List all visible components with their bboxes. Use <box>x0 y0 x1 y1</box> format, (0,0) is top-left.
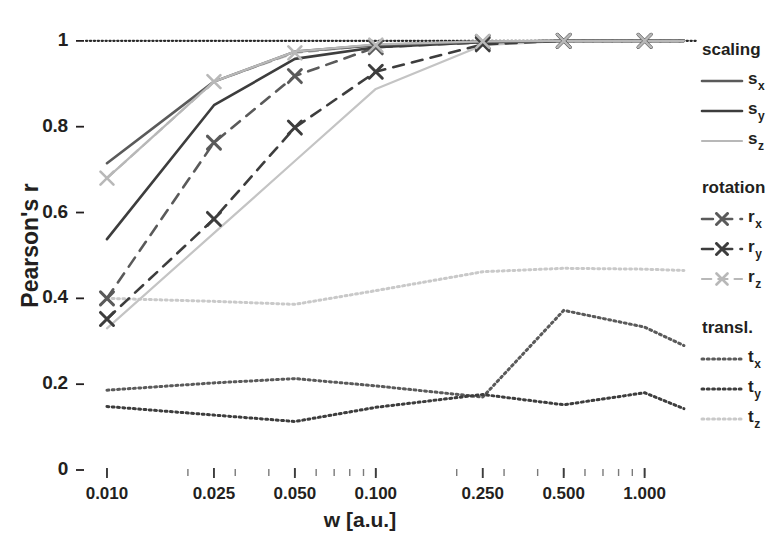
legend-entry-label: sx <box>748 70 765 91</box>
series-line-t_y <box>107 393 684 422</box>
scaling-group: scalingsxsysz <box>700 40 780 156</box>
legend-item-sz[interactable]: sz <box>700 126 780 156</box>
series-line-s_y_light <box>107 41 684 329</box>
legend-entry-label: sz <box>748 130 764 151</box>
x-tick-label: 0.500 <box>519 484 609 504</box>
rotation-group: rotationrxryrz <box>700 178 780 294</box>
series-markers-r_y <box>100 34 651 325</box>
legend-group-title: transl. <box>702 318 780 338</box>
legend-item-sx[interactable]: sx <box>700 66 780 96</box>
series-line-r_y <box>107 41 684 319</box>
legend-entry-label: sy <box>748 100 765 121</box>
y-tick-label: 0.2 <box>0 372 68 394</box>
legend-entry-label: ty <box>748 378 761 399</box>
legend-line-swatch <box>700 242 744 256</box>
x-tick-label: 0.025 <box>169 484 259 504</box>
legend: scalingsxsyszrotationrxryrztransl.txtytz <box>700 0 780 549</box>
series-line-t_x <box>107 310 684 397</box>
x-tick-label: 0.050 <box>250 484 340 504</box>
legend-line-swatch <box>700 382 744 396</box>
legend-entry-label: rx <box>748 208 762 229</box>
x-tick-label: 0.250 <box>438 484 528 504</box>
series-markers-r_x <box>100 34 651 304</box>
y-tick-label: 0 <box>0 458 68 480</box>
plot-area: 00.20.40.60.81 0.0100.0250.0500.1000.250… <box>0 0 700 549</box>
legend-line-swatch <box>700 134 744 148</box>
legend-group-title: scaling <box>702 40 780 60</box>
series-line-r_z <box>107 41 684 178</box>
legend-entry-label: ry <box>748 238 762 259</box>
legend-group-title: rotation <box>702 178 780 198</box>
y-tick-label: 0.8 <box>0 115 68 137</box>
legend-item-rz[interactable]: rz <box>700 264 780 294</box>
legend-line-swatch <box>700 412 744 426</box>
legend-line-swatch <box>700 212 744 226</box>
legend-item-tx[interactable]: tx <box>700 344 780 374</box>
series-line-r_x <box>107 41 684 298</box>
legend-item-ty[interactable]: ty <box>700 374 780 404</box>
x-tick-label: 0.100 <box>331 484 421 504</box>
x-axis-title: w [a.u.] <box>250 508 470 532</box>
legend-line-swatch <box>700 352 744 366</box>
legend-item-rx[interactable]: rx <box>700 204 780 234</box>
axis-tickmarks <box>76 41 645 478</box>
legend-item-ry[interactable]: ry <box>700 234 780 264</box>
legend-line-swatch <box>700 74 744 88</box>
legend-line-swatch <box>700 272 744 286</box>
series-line-s_x <box>107 41 684 163</box>
chart-page: 00.20.40.60.81 0.0100.0250.0500.1000.250… <box>0 0 780 549</box>
chart-canvas <box>0 0 700 549</box>
y-tick-label: 1 <box>0 29 68 51</box>
legend-entry-label: tz <box>748 408 760 429</box>
series-line-s_z <box>107 41 684 178</box>
x-tick-label: 1.000 <box>600 484 690 504</box>
translation-group: transl.txtytz <box>700 318 780 434</box>
y-axis-title: Pearson's r <box>17 156 44 336</box>
legend-item-tz[interactable]: tz <box>700 404 780 434</box>
series-line-s_y <box>107 41 684 239</box>
legend-entry-label: rz <box>748 268 761 289</box>
legend-entry-label: tx <box>748 348 761 369</box>
legend-item-sy[interactable]: sy <box>700 96 780 126</box>
series-line-t_z <box>107 268 684 304</box>
x-tick-label: 0.010 <box>62 484 152 504</box>
legend-line-swatch <box>700 104 744 118</box>
